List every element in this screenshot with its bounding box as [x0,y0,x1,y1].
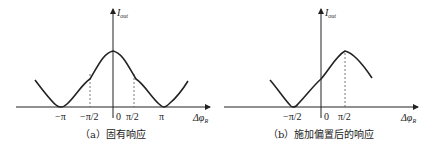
x-axis-label-b: ΔφR [400,112,416,124]
tick-neg-half-pi-b: −π/2 [283,111,301,122]
y-axis-label-a: Iout [116,7,128,19]
tick-neg-half-pi: −π/2 [80,111,98,122]
tick-zero-b: 0 [324,111,329,122]
tick-neg-pi: −π [55,111,66,122]
figure: Iout −π −π/2 0 π/2 π ΔφR （a）固有响应 Iout −π… [0,0,431,149]
tick-half-pi: π/2 [126,111,139,122]
tick-half-pi-b: π/2 [338,111,351,122]
y-axis-label-b: Iout [324,7,336,19]
tick-zero: 0 [116,111,121,122]
caption-a: （a）固有响应 [80,128,146,140]
x-axis-label-a: ΔφR [192,112,208,124]
panel-a: Iout −π −π/2 0 π/2 π ΔφR （a）固有响应 [16,7,210,140]
response-curve-a [35,51,188,107]
panel-b: Iout −π/2 0 π/2 ΔφR （b）施加偏置后的响应 [224,7,418,140]
caption-b: （b）施加偏置后的响应 [268,128,374,140]
tick-pi: π [159,111,164,122]
